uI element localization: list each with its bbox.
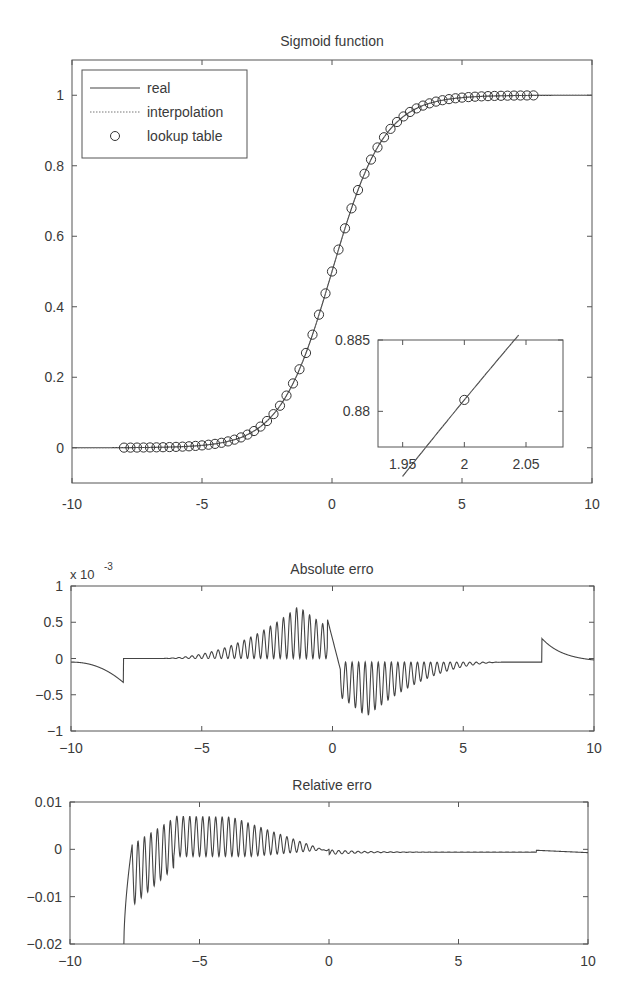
y-tick-label: 0.2	[45, 369, 65, 385]
sigmoid-plot: Sigmoid function -10-5051000.20.40.60.81…	[45, 33, 600, 512]
y-tick-label: 0.5	[44, 614, 64, 630]
relative-error-plot: Relative erro −10−50510−0.02−0.0100.01	[27, 777, 596, 969]
legend-label-interpolation: interpolation	[147, 104, 223, 120]
absolute-error-axis-ticks: −10−50510−1−0.500.51	[35, 578, 602, 756]
x-tick-label: −5	[192, 953, 208, 969]
x-tick-label: −5	[194, 740, 210, 756]
x-tick-label: 5	[455, 953, 463, 969]
inset-zoom-plot: 1.9522.050.880.885	[335, 332, 563, 476]
absolute-error-scale-label: x 10	[70, 567, 95, 582]
absolute-error-curve	[71, 608, 594, 715]
absolute-error-line	[71, 608, 594, 715]
y-tick-label: 0.8	[45, 158, 65, 174]
y-tick-label: −0.01	[27, 889, 63, 905]
y-tick-label: 0.4	[45, 299, 65, 315]
x-tick-label: 0	[325, 953, 333, 969]
y-tick-label: −0.02	[27, 936, 63, 952]
sigmoid-plot-title: Sigmoid function	[280, 33, 384, 49]
y-tick-label: 0	[56, 440, 64, 456]
relative-error-frame	[70, 802, 588, 944]
x-tick-label: 10	[580, 953, 596, 969]
legend-label-real: real	[147, 80, 170, 96]
relative-error-title: Relative erro	[292, 777, 372, 793]
x-tick-label: -10	[62, 496, 82, 512]
y-tick-label: −0.5	[35, 687, 63, 703]
y-tick-label: 0.01	[35, 794, 62, 810]
absolute-error-plot: Absolute erro x 10 -3 −10−50510−1−0.500.…	[35, 561, 602, 756]
absolute-error-title: Absolute erro	[290, 561, 373, 577]
x-tick-label: -5	[196, 496, 209, 512]
y-tick-label: 0	[54, 841, 62, 857]
x-tick-label: 2.05	[512, 456, 539, 472]
legend-label-lookup-table: lookup table	[147, 128, 223, 144]
y-tick-label: 1	[55, 578, 63, 594]
legend: real interpolation lookup table	[82, 70, 247, 158]
relative-error-axis-ticks: −10−50510−0.02−0.0100.01	[27, 794, 596, 969]
inset-background	[378, 340, 563, 447]
y-tick-label: 0	[55, 651, 63, 667]
x-tick-label: 0	[329, 740, 337, 756]
absolute-error-scale-exponent: -3	[104, 561, 113, 572]
figure: Sigmoid function -10-5051000.20.40.60.81…	[0, 0, 633, 1006]
x-tick-label: 10	[584, 496, 600, 512]
x-tick-label: 1.95	[389, 456, 416, 472]
x-tick-label: 2	[460, 456, 468, 472]
relative-error-line	[124, 816, 588, 944]
x-tick-label: −10	[59, 740, 83, 756]
y-tick-label: 0.88	[343, 403, 370, 419]
x-tick-label: 10	[586, 740, 602, 756]
y-tick-label: 0.885	[335, 332, 370, 348]
x-tick-label: −10	[58, 953, 82, 969]
x-tick-label: 0	[328, 496, 336, 512]
x-tick-label: 5	[458, 496, 466, 512]
y-tick-label: 0.6	[45, 228, 65, 244]
relative-error-curve	[124, 816, 588, 944]
y-tick-label: 1	[56, 87, 64, 103]
y-tick-label: −1	[47, 723, 63, 739]
x-tick-label: 5	[459, 740, 467, 756]
